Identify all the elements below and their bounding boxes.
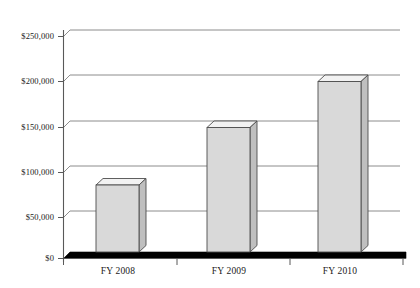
y-axis-label-50000: $50,000 — [0, 213, 54, 222]
chart-canvas — [0, 0, 420, 288]
bar-fy-2010-side-face — [361, 75, 368, 252]
bar-fy-2008-side-face — [139, 179, 146, 253]
x-axis-label-fy-2008: FY 2008 — [78, 266, 158, 276]
bar-chart: $0 $50,000 $100,000 $150,000 $200,000 $2… — [0, 0, 420, 288]
bar-fy-2010[interactable] — [318, 75, 368, 252]
chart-floor — [64, 252, 407, 259]
y-axis-label-150000: $150,000 — [0, 123, 54, 132]
y-axis-label-200000: $200,000 — [0, 77, 54, 86]
bar-fy-2010-top-face — [318, 75, 368, 82]
y-axis-label-250000: $250,000 — [0, 32, 54, 41]
y-axis-label-0: $0 — [0, 254, 54, 263]
bar-fy-2008-top-face — [96, 179, 146, 186]
x-axis — [64, 259, 407, 266]
y-axis — [58, 30, 64, 262]
x-axis-label-fy-2010: FY 2010 — [300, 266, 380, 276]
bar-fy-2009-top-face — [207, 121, 257, 128]
bar-fy-2009[interactable] — [207, 121, 257, 252]
bar-fy-2010-front-face — [318, 82, 361, 253]
bar-fy-2009-front-face — [207, 128, 250, 253]
bar-fy-2009-side-face — [250, 121, 257, 252]
floor-slab — [64, 252, 407, 259]
x-axis-label-fy-2009: FY 2009 — [189, 266, 269, 276]
bar-fy-2008[interactable] — [96, 179, 146, 253]
bar-fy-2008-front-face — [96, 185, 139, 252]
y-axis-label-100000: $100,000 — [0, 168, 54, 177]
gridline-250000 — [64, 30, 401, 37]
